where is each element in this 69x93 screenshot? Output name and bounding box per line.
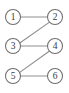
node-3: 3 bbox=[6, 39, 21, 54]
node-5-label: 5 bbox=[11, 71, 16, 81]
node-5: 5 bbox=[6, 69, 21, 84]
edge-3-2 bbox=[19, 22, 49, 43]
node-4-label: 4 bbox=[53, 41, 58, 51]
node-2-label: 2 bbox=[53, 12, 58, 22]
node-2: 2 bbox=[48, 10, 63, 25]
node-6: 6 bbox=[48, 69, 63, 84]
node-6-label: 6 bbox=[53, 71, 58, 81]
graph-diagram: 1 2 3 4 5 6 bbox=[0, 0, 69, 93]
node-1-label: 1 bbox=[11, 12, 16, 22]
node-4: 4 bbox=[48, 39, 63, 54]
node-3-label: 3 bbox=[11, 41, 16, 51]
node-1: 1 bbox=[6, 10, 21, 25]
graph-canvas: 1 2 3 4 5 6 bbox=[0, 0, 69, 93]
edge-layer bbox=[19, 17, 49, 76]
edge-5-4 bbox=[19, 51, 49, 72]
